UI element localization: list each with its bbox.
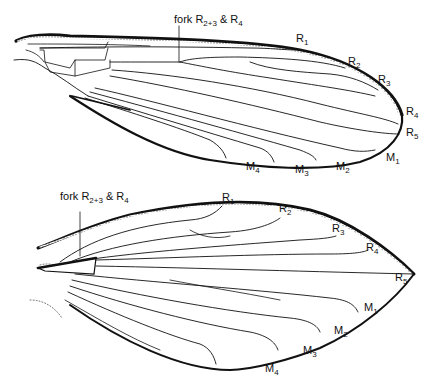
lower-label-m1: M1 bbox=[364, 302, 378, 316]
lower-label-r3: R3 bbox=[332, 223, 344, 237]
upper-label-r1: R1 bbox=[296, 33, 308, 47]
lower-label-r4: R4 bbox=[366, 242, 378, 256]
upper-fork-label: fork R2+3 & R4 bbox=[174, 14, 243, 28]
lower-label-r5: R5 bbox=[395, 272, 407, 286]
upper-label-r2: R2 bbox=[348, 56, 360, 70]
upper-label-m2: M2 bbox=[336, 161, 350, 175]
lower-wing bbox=[30, 202, 414, 370]
lower-label-m4: M4 bbox=[265, 363, 279, 377]
lower-fork-label: fork R2+3 & R4 bbox=[60, 191, 129, 205]
upper-label-r3: R3 bbox=[378, 74, 390, 88]
lower-label-m2: M2 bbox=[334, 325, 348, 339]
lower-label-r1: R1 bbox=[222, 192, 234, 206]
upper-wing bbox=[14, 26, 402, 168]
wing-venation-figure: fork R2+3 & R4 R1 R2 R3 R4 R5 M1 M2 M3 M… bbox=[0, 0, 430, 388]
upper-label-m1: M1 bbox=[386, 152, 400, 166]
upper-label-m4: M4 bbox=[246, 161, 260, 175]
upper-label-r5: R5 bbox=[406, 127, 418, 141]
lower-label-r2: R2 bbox=[279, 203, 291, 217]
upper-label-m3: M3 bbox=[295, 164, 309, 178]
upper-label-r4: R4 bbox=[406, 106, 418, 120]
lower-label-m3: M3 bbox=[303, 345, 317, 359]
